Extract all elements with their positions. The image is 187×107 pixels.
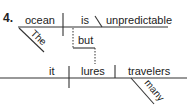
conjunction-word: but xyxy=(78,34,93,46)
clause1-predicate-slash xyxy=(95,16,102,27)
sentence-diagram: 4. ocean is unpredictable The but it lur… xyxy=(0,0,187,107)
clause2-direct-object: travelers xyxy=(128,65,171,77)
clause1-predicate-adjective: unpredictable xyxy=(106,14,172,26)
clause2-verb: lures xyxy=(81,65,105,77)
clause1-subject-modifier: The xyxy=(29,28,49,48)
clause2-subject: it xyxy=(49,65,55,77)
clause1-verb: is xyxy=(81,14,89,26)
diagram-canvas: 4. ocean is unpredictable The but it lur… xyxy=(0,0,187,107)
clause1-subject: ocean xyxy=(25,14,55,26)
clause2-object-modifier: many xyxy=(142,77,166,103)
item-number: 4. xyxy=(3,11,13,25)
